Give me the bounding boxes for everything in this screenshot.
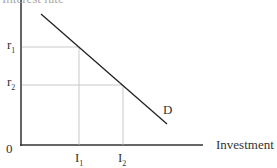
curve-label: D (163, 103, 172, 116)
r1-label: r1 (7, 38, 15, 51)
y-axis-label: Interest rate (2, 0, 64, 5)
x-axis-label: Investment (216, 138, 274, 151)
i2-label: I2 (118, 151, 126, 164)
r2-label: r2 (7, 75, 15, 88)
i1-label: I1 (75, 151, 83, 164)
origin-label: 0 (6, 142, 13, 155)
demand-curve (41, 14, 167, 124)
